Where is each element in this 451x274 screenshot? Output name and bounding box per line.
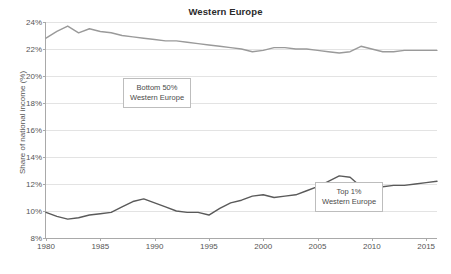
y-tick-label: 24%	[26, 18, 42, 27]
x-tick-label: 2010	[363, 242, 381, 251]
x-tick-label: 1995	[200, 242, 218, 251]
y-tick-label: 12%	[26, 180, 42, 189]
x-tick-label: 1980	[37, 242, 55, 251]
annotation-top-1: Top 1% Western Europe	[315, 182, 383, 212]
plot-area: 8%10%12%14%16%18%20%22%24% 1980198519901…	[45, 22, 437, 239]
x-tick-label: 2005	[309, 242, 327, 251]
x-tick-mark	[318, 238, 319, 241]
x-tick-mark	[100, 238, 101, 241]
y-tick-label: 22%	[26, 45, 42, 54]
x-tick-mark	[209, 238, 210, 241]
chart-container: Western Europe Share of national income …	[0, 0, 451, 274]
x-tick-label: 1990	[146, 242, 164, 251]
annotation-bottom-50: Bottom 50% Western Europe	[123, 78, 191, 108]
y-tick-label: 16%	[26, 126, 42, 135]
x-tick-mark	[155, 238, 156, 241]
x-tick-mark	[263, 238, 264, 241]
x-tick-label: 2015	[417, 242, 435, 251]
y-tick-label: 10%	[26, 207, 42, 216]
x-tick-mark	[426, 238, 427, 241]
y-tick-label: 14%	[26, 153, 42, 162]
y-tick-label: 20%	[26, 72, 42, 81]
x-tick-label: 1985	[91, 242, 109, 251]
x-tick-mark	[372, 238, 373, 241]
y-tick-label: 18%	[26, 99, 42, 108]
x-tick-label: 2000	[254, 242, 272, 251]
series-line	[46, 26, 437, 53]
x-tick-mark	[46, 238, 47, 241]
chart-title: Western Europe	[0, 6, 451, 17]
